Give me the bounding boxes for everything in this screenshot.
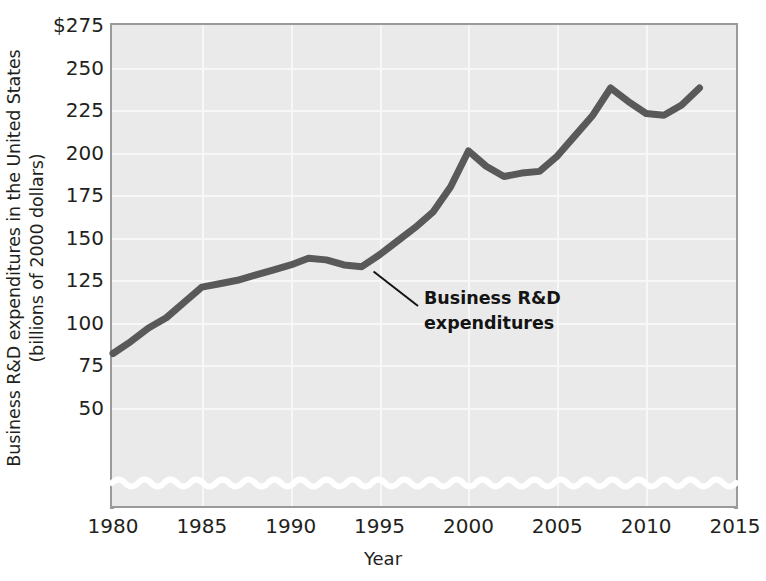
annotation-business-rd: Business R&D expenditures bbox=[424, 286, 634, 336]
x-axis-tick-labels: 19801985199019952000200520102015 bbox=[0, 513, 766, 547]
x-tick-label: 1985 bbox=[157, 513, 247, 539]
x-axis-title: Year bbox=[0, 548, 766, 569]
x-tick-label: 2005 bbox=[512, 513, 602, 539]
x-tick-label: 1980 bbox=[68, 513, 158, 539]
y-tick-label: 175 bbox=[42, 185, 104, 205]
y-tick-label: $275 bbox=[42, 15, 104, 35]
chart-figure: Business R&D expenditures in the United … bbox=[0, 0, 766, 581]
y-tick-label: 250 bbox=[42, 58, 104, 78]
axis-break-squiggle bbox=[112, 480, 736, 487]
annotation-line1: Business R&D bbox=[424, 286, 634, 311]
y-tick-label: 75 bbox=[42, 355, 104, 375]
y-tick-label: 100 bbox=[42, 313, 104, 333]
annotation-line2: expenditures bbox=[424, 311, 634, 336]
x-tick-label: 2000 bbox=[423, 513, 513, 539]
data-layer bbox=[112, 25, 736, 506]
y-tick-label: 200 bbox=[42, 143, 104, 163]
y-axis-title-line1: Business R&D expenditures in the United … bbox=[4, 49, 24, 466]
y-tick-label: 150 bbox=[42, 228, 104, 248]
plot-area bbox=[112, 25, 736, 506]
x-tick-label: 2010 bbox=[601, 513, 691, 539]
y-tick-label: 125 bbox=[42, 270, 104, 290]
x-tick-label: 2015 bbox=[690, 513, 766, 539]
y-tick-label: 225 bbox=[42, 100, 104, 120]
y-axis-tick-labels: $2752502252001751501251007550 bbox=[36, 0, 104, 515]
y-tick-label: 50 bbox=[42, 398, 104, 418]
x-tick-label: 1990 bbox=[246, 513, 336, 539]
annotation-leader-line bbox=[374, 272, 418, 306]
x-tick-label: 1995 bbox=[335, 513, 425, 539]
